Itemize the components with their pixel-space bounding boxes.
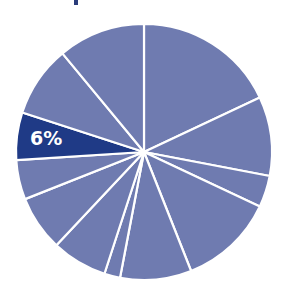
slice-label-6-percent: 6% <box>30 127 62 149</box>
